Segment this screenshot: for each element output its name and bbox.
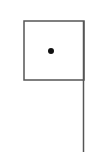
flag-diagram	[0, 0, 105, 153]
background	[0, 0, 105, 153]
center-dot	[48, 48, 54, 54]
